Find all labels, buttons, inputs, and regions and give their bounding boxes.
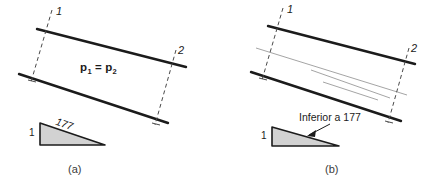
right-section-tick [152,123,160,125]
triangle-leg-label-b: 1 [261,131,267,141]
panel-a-drawing [0,0,223,189]
lower-boundary-line [19,74,168,123]
endpoint-label-2-a: 2 [178,45,184,56]
formula-equals: = [95,61,102,73]
endpoint-label-2-b: 2 [411,43,417,54]
triangle-leg-label-a: 1 [29,128,35,138]
callout-arrowhead-icon [307,130,316,137]
panel-b-drawing [223,0,446,189]
formula-sub-left: 1 [87,67,92,76]
endpoint-label-1-b: 1 [287,4,293,15]
right-section-tick [385,121,393,123]
callout-label-inferior: Inferior a 177 [299,112,361,123]
interior-thin-line-2 [311,70,390,98]
figure-root: 1 2 p1=p2 1 177 (a) [0,0,447,189]
pressure-equality-formula: p1=p2 [80,62,117,76]
formula-sub-right: 2 [113,67,118,76]
panel-caption-b: (b) [325,164,338,175]
left-section-dashed-line [262,8,283,80]
endpoint-label-1-a: 1 [56,6,62,17]
panel-a: 1 2 p1=p2 1 177 (a) [0,0,223,189]
panel-caption-a: (a) [68,164,81,175]
left-section-dashed-line [31,10,52,82]
panel-b: 1 2 Inferior a 177 1 (b) [223,0,446,189]
formula-p-right: p [105,61,112,73]
slope-triangle [272,127,339,146]
